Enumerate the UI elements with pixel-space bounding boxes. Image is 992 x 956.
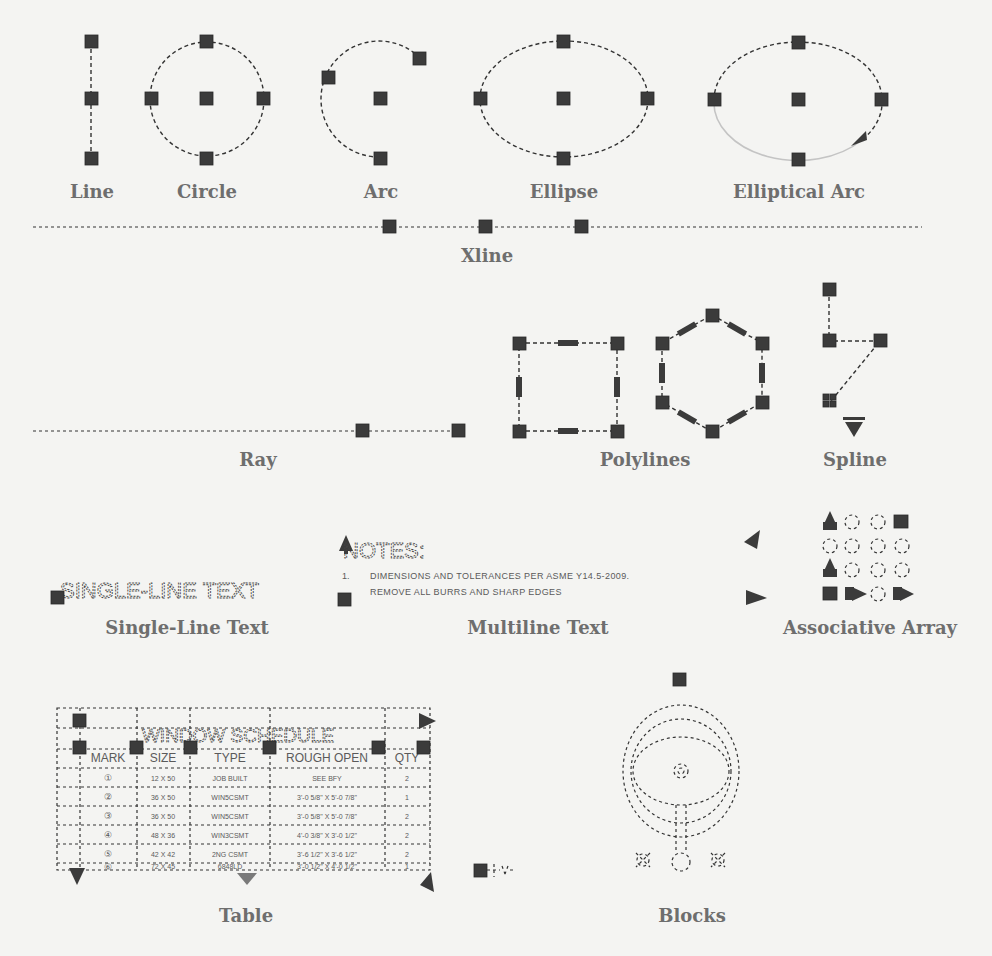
arc-endpoint-grip-icon[interactable]	[875, 93, 888, 106]
vertex-grip-icon[interactable]	[611, 425, 624, 438]
block-small-symbol-icon[interactable]	[474, 864, 516, 877]
arc-midpoint-grip-icon[interactable]	[374, 152, 387, 165]
spline-end-grip-icon[interactable]	[823, 394, 836, 407]
arc-endpoint-grip-icon[interactable]	[413, 52, 426, 65]
column-width-arrow-icon[interactable]	[744, 530, 760, 549]
segment-midpoint-grip-icon[interactable]	[677, 409, 697, 424]
table-width-arrow-icon[interactable]	[419, 713, 436, 729]
array-row-count-grip-icon[interactable]	[823, 511, 837, 530]
table-origin-grip-icon[interactable]	[73, 714, 86, 727]
control-vertex-grip-icon[interactable]	[874, 334, 887, 347]
array-column-spacing-grip-icon[interactable]	[845, 587, 867, 601]
column-grip-icon[interactable]	[73, 741, 86, 754]
segment-midpoint-grip-icon[interactable]	[659, 363, 665, 383]
xline-grip-icon[interactable]	[575, 220, 588, 233]
block-grip-icon[interactable]	[474, 864, 487, 877]
spline-object[interactable]	[823, 283, 887, 437]
single-line-text-object[interactable]: SINGLE-LINE TEXT	[51, 578, 259, 604]
segment-midpoint-grip-icon[interactable]	[558, 428, 578, 434]
vertex-grip-icon[interactable]	[706, 425, 719, 438]
polyline-hexagon-object[interactable]	[656, 309, 769, 438]
control-vertex-grip-icon[interactable]	[823, 283, 836, 296]
svg-text:36 X 50: 36 X 50	[151, 813, 175, 820]
center-grip-icon[interactable]	[557, 92, 570, 105]
width-arrow-icon[interactable]	[746, 590, 767, 605]
segment-midpoint-grip-icon[interactable]	[558, 340, 578, 346]
segment-midpoint-grip-icon[interactable]	[516, 377, 522, 397]
caption-polylines: Polylines	[600, 449, 691, 470]
table-height-arrow-icon[interactable]	[69, 868, 85, 885]
endpoint-grip-icon[interactable]	[85, 152, 98, 165]
segment-midpoint-grip-icon[interactable]	[727, 409, 747, 424]
xline-grip-icon[interactable]	[383, 220, 396, 233]
vertex-grip-icon[interactable]	[706, 309, 719, 322]
endpoint-grip-icon[interactable]	[85, 35, 98, 48]
ellipse-object[interactable]	[474, 35, 654, 165]
segment-midpoint-grip-icon[interactable]	[759, 363, 765, 383]
column-grip-icon[interactable]	[130, 741, 143, 754]
column-grip-icon[interactable]	[184, 741, 197, 754]
axis-grip-icon[interactable]	[792, 153, 805, 166]
arc-object[interactable]	[321, 41, 426, 165]
quadrant-grip-icon[interactable]	[145, 92, 158, 105]
column-grip-icon[interactable]	[263, 741, 276, 754]
ray-direction-grip-icon[interactable]	[452, 424, 465, 437]
axis-grip-icon[interactable]	[641, 92, 654, 105]
spline-method-dropdown-icon[interactable]	[843, 417, 865, 437]
caption-ellipse: Ellipse	[530, 181, 598, 202]
direction-arrow-icon[interactable]	[851, 131, 867, 146]
vertex-grip-icon[interactable]	[513, 337, 526, 350]
midpoint-grip-icon[interactable]	[85, 92, 98, 105]
center-grip-icon[interactable]	[792, 93, 805, 106]
svg-text:2: 2	[405, 775, 409, 782]
vertex-grip-icon[interactable]	[513, 425, 526, 438]
segment-midpoint-grip-icon[interactable]	[614, 377, 620, 397]
quadrant-grip-icon[interactable]	[200, 152, 213, 165]
center-grip-icon[interactable]	[374, 92, 387, 105]
array-column-count-grip-icon[interactable]	[893, 587, 914, 601]
array-corner-grip-icon[interactable]	[894, 515, 908, 528]
table-break-arrow-icon[interactable]	[237, 873, 257, 885]
arc-endpoint-grip-icon[interactable]	[708, 93, 721, 106]
caption-single-line-text: Single-Line Text	[105, 617, 269, 638]
associative-array-object[interactable]	[823, 511, 914, 601]
xline-object[interactable]	[33, 220, 922, 233]
vertex-grip-icon[interactable]	[611, 337, 624, 350]
arc-endpoint-grip-icon[interactable]	[322, 71, 335, 84]
axis-grip-icon[interactable]	[557, 35, 570, 48]
segment-midpoint-grip-icon[interactable]	[677, 321, 697, 336]
center-grip-icon[interactable]	[200, 92, 213, 105]
vertex-grip-icon[interactable]	[656, 337, 669, 350]
block-insertion-grip-icon[interactable]	[673, 673, 686, 686]
insertion-grip-icon[interactable]	[51, 591, 64, 604]
axis-grip-icon[interactable]	[474, 92, 487, 105]
line-object[interactable]	[85, 35, 98, 165]
table-object[interactable]: WINDOW SCHEDULE MARK SIZE TYPE ROUGH OPE…	[57, 708, 436, 892]
axis-grip-icon[interactable]	[792, 36, 805, 49]
control-vertex-grip-icon[interactable]	[823, 334, 836, 347]
svg-text:12 X 50: 12 X 50	[151, 775, 175, 782]
polyline-rectangle-object[interactable]	[513, 337, 624, 438]
vertex-grip-icon[interactable]	[756, 396, 769, 409]
ray-object[interactable]	[33, 424, 465, 437]
segment-midpoint-grip-icon[interactable]	[727, 321, 747, 336]
array-row-spacing-grip-icon[interactable]	[823, 558, 837, 577]
table-resize-arrow-icon[interactable]	[420, 872, 434, 892]
vertex-grip-icon[interactable]	[656, 396, 669, 409]
array-base-grip-icon[interactable]	[823, 587, 837, 600]
quadrant-grip-icon[interactable]	[257, 92, 270, 105]
column-grip-icon[interactable]	[372, 741, 385, 754]
quadrant-grip-icon[interactable]	[200, 35, 213, 48]
column-header: TYPE	[214, 751, 245, 765]
axis-grip-icon[interactable]	[557, 152, 570, 165]
elliptical-arc-object[interactable]	[708, 36, 888, 166]
column-grip-icon[interactable]	[417, 741, 430, 754]
ray-start-grip-icon[interactable]	[356, 424, 369, 437]
vertex-grip-icon[interactable]	[756, 337, 769, 350]
block-object[interactable]	[474, 673, 739, 877]
multiline-text-object[interactable]: NOTES: 1. DIMENSIONS AND TOLERANCES PER …	[338, 530, 767, 606]
insertion-grip-icon[interactable]	[338, 593, 351, 606]
xline-grip-icon[interactable]	[479, 220, 492, 233]
circle-object[interactable]	[145, 35, 270, 165]
notes-heading: NOTES:	[343, 538, 425, 563]
